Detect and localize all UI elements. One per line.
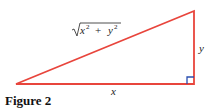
figure-caption: Figure 2 xyxy=(5,93,51,109)
hyp-y-exponent: 2 xyxy=(114,23,118,31)
right-angle-marker xyxy=(187,77,194,84)
hyp-x: x xyxy=(79,24,85,36)
hypotenuse-label: x 2 + y 2 xyxy=(72,23,121,36)
hyp-x-exponent: 2 xyxy=(86,23,90,31)
vertical-side-label: y xyxy=(198,42,204,54)
hyp-y: y xyxy=(107,24,113,36)
right-triangle xyxy=(16,11,194,84)
hyp-plus: + xyxy=(95,24,101,36)
horizontal-side-label: x xyxy=(110,85,116,97)
